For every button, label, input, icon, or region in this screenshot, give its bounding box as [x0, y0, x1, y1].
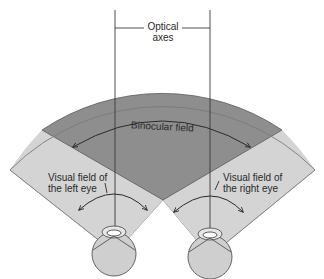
left-lens — [107, 230, 121, 236]
optical-axes-line2: axes — [138, 32, 188, 43]
left-field-line1: Visual field of — [48, 172, 107, 183]
left-field-line2: the left eye — [48, 183, 107, 194]
right-field-line1: Visual field of — [223, 172, 282, 183]
left-field-label: Visual field of the left eye — [48, 172, 107, 194]
left-eyeball — [92, 232, 136, 276]
right-eyeball — [188, 235, 232, 279]
right-lens — [203, 232, 217, 238]
right-field-line2: the right eye — [223, 183, 282, 194]
optical-axes-label: Optical axes — [138, 21, 188, 43]
right-field-label: Visual field of the right eye — [223, 172, 282, 194]
optical-axes-line1: Optical — [138, 21, 188, 32]
